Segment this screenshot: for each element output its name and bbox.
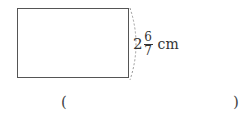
side-length-label: 2 6 7 cm (133, 27, 179, 61)
mixed-number-whole: 2 (133, 35, 143, 53)
unit-label: cm (158, 36, 179, 52)
fraction-denominator: 7 (144, 45, 152, 58)
fraction-numerator: 6 (144, 31, 152, 44)
rectangle-figure (17, 8, 129, 78)
fraction: 6 7 (144, 31, 153, 58)
answer-blank[interactable] (72, 93, 230, 113)
answer-open-paren: ( (61, 93, 67, 111)
answer-close-paren: ) (233, 93, 239, 111)
